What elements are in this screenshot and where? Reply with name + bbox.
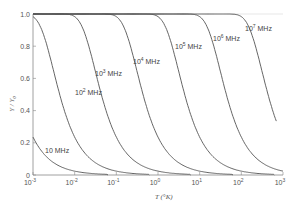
curves <box>33 14 283 175</box>
y-tick-label: 0.2 <box>20 139 30 146</box>
y-tick-label: 0.6 <box>20 75 30 82</box>
x-tick-label: 10-2 <box>66 177 78 186</box>
y-axis-label: Y / Y0 <box>8 96 17 112</box>
y-tick-label: 0.8 <box>20 43 30 50</box>
curve-label: 10 MHz <box>45 147 70 154</box>
y-tick-label: 0.4 <box>20 107 30 114</box>
x-tick-label: 100 <box>150 177 161 186</box>
curve-label: 106 MHz <box>213 33 240 42</box>
x-tick-label: 102 <box>233 177 244 186</box>
x-tick-label: 10-3 <box>24 177 36 186</box>
y-tick-label: 0 <box>26 172 30 179</box>
axes: 00.20.40.60.81.010-310-210-1100101102103… <box>8 11 286 202</box>
curve-10-mhz <box>33 137 108 175</box>
x-axis-label: T (°K) <box>155 193 173 201</box>
curve-labels: 10 MHz102 MHz103 MHz104 MHz105 MHz106 MH… <box>45 23 272 154</box>
curve-label: 107 MHz <box>245 23 272 32</box>
curve-label: 104 MHz <box>133 56 160 65</box>
curve-label: 102 MHz <box>75 87 102 96</box>
x-tick-label: 101 <box>191 177 202 186</box>
chart: 00.20.40.60.81.010-310-210-1100101102103… <box>0 0 288 208</box>
curve-10000000-mhz <box>33 14 276 121</box>
curve-label: 105 MHz <box>175 41 202 50</box>
curve-label: 103 MHz <box>95 68 122 77</box>
y-tick-label: 1.0 <box>20 11 30 18</box>
x-tick-label: 10-1 <box>107 177 119 186</box>
curve-1000000-mhz <box>33 14 283 171</box>
x-tick-label: 103 <box>275 177 286 186</box>
